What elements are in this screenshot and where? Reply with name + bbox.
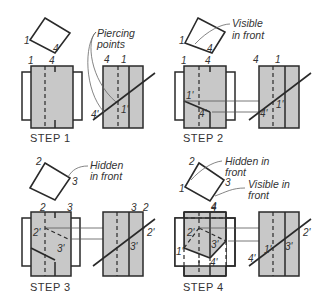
side-point-3: 3' <box>130 241 139 252</box>
note-hidden-front: front <box>225 166 247 178</box>
label-4: 4 <box>207 43 213 54</box>
side-point-3: 3' <box>285 241 294 252</box>
side-label-1: 1 <box>121 54 127 65</box>
side-label-2: 2 <box>142 202 149 213</box>
front-label-4: 4 <box>205 55 211 66</box>
step-caption: STEP 3 <box>30 281 71 293</box>
top-view-prism <box>30 18 70 53</box>
side-view <box>249 66 311 128</box>
label-2: 2 <box>188 156 195 167</box>
side-view <box>93 66 155 128</box>
front-point-4: 4' <box>199 108 208 119</box>
side-view <box>249 212 311 276</box>
panel-step4: 2 3 1 4 Hidden in front Visible in front <box>175 155 312 293</box>
side-point-1: 1' <box>276 99 285 110</box>
front-label-4: 4 <box>211 201 217 212</box>
front-view <box>22 66 82 128</box>
note-in-front: in front <box>90 170 123 182</box>
label-1: 1 <box>179 183 185 194</box>
note-visible-front: front <box>248 189 270 201</box>
side-label-3: 3 <box>131 202 137 213</box>
front-label-1: 1 <box>28 55 34 66</box>
label-3: 3 <box>72 176 78 187</box>
top-view-prism <box>185 163 224 201</box>
panel-step2: 1 4 Visible in front 1 4 1' 4' 4 1 1' 4'… <box>175 17 311 144</box>
top-view-prism <box>185 18 225 53</box>
label-1: 1 <box>179 35 185 46</box>
step-caption: STEP 4 <box>183 281 224 293</box>
panel-step3: 2 3 Hidden in front 2 3 2' 3' 3 2 2' 3' … <box>22 156 156 293</box>
front-point-1: 1' <box>176 246 185 257</box>
label-4: 4 <box>53 43 59 54</box>
front-label-4: 4 <box>49 55 55 66</box>
front-label-3: 3 <box>67 202 73 213</box>
note-in-front: in front <box>232 29 265 41</box>
label-3: 3 <box>225 177 231 188</box>
front-view <box>175 212 235 276</box>
side-view <box>93 212 155 276</box>
label-1: 1 <box>24 35 30 46</box>
side-point-1: 1' <box>264 244 273 255</box>
label-2: 2 <box>35 156 42 167</box>
front-view <box>22 212 80 276</box>
front-label-1: 1 <box>181 55 187 66</box>
front-point-3: 3' <box>211 239 220 250</box>
side-point-1: 1' <box>121 104 130 115</box>
side-point-2: 2' <box>146 227 156 238</box>
front-point-3: 3' <box>57 243 66 254</box>
side-point-4: 4' <box>248 253 257 264</box>
front-point-4: 4' <box>210 257 219 268</box>
front-point-1: 1' <box>186 90 195 101</box>
panel-step1: 1 4 1 4 4 1 1' 4' Piercing points STEP 1 <box>22 18 155 144</box>
note-points: points <box>96 38 126 50</box>
side-label-4: 4 <box>253 54 259 65</box>
step-caption: STEP 2 <box>183 132 224 144</box>
side-point-4: 4' <box>91 109 100 120</box>
side-point-4: 4' <box>260 108 269 119</box>
side-point-2: 2' <box>302 227 312 238</box>
top-view-prism <box>30 163 70 200</box>
intersection-diagram: 1 4 1 4 4 1 1' 4' Piercing points STEP 1 <box>0 0 329 303</box>
front-point-2: 2' <box>32 227 42 238</box>
side-label-1: 1 <box>275 54 281 65</box>
front-point-2: 2' <box>186 227 196 238</box>
side-label-4: 4 <box>104 54 110 65</box>
note-visible: Visible <box>232 17 263 29</box>
step-caption: STEP 1 <box>30 132 71 144</box>
front-label-2: 2 <box>39 202 46 213</box>
